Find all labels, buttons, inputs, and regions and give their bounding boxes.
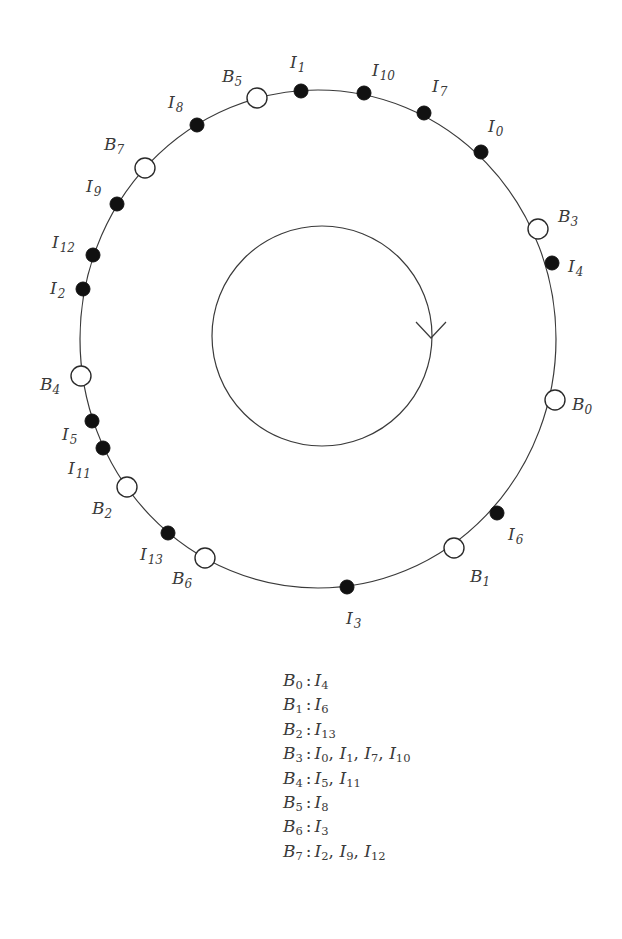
node-b3: [528, 219, 548, 239]
legend-row-b0: B0:I4: [283, 668, 411, 692]
node-label-i10: I10: [371, 60, 395, 83]
node-label-b5: B5: [221, 66, 242, 89]
node-label-i2: I2: [49, 278, 65, 301]
legend-key: B4: [283, 768, 303, 788]
legend-comma: ,: [329, 841, 340, 861]
node-b5: [247, 88, 267, 108]
legend-value: I2: [315, 841, 329, 861]
node-label-i4: I4: [567, 256, 583, 279]
legend-key: B7: [283, 841, 303, 861]
legend-value: I11: [339, 768, 360, 788]
legend-separator: :: [306, 768, 312, 788]
node-label-i3: I3: [345, 608, 362, 631]
node-label-b1: B1: [469, 566, 490, 589]
legend-value: I0: [315, 743, 329, 763]
legend-value: I8: [315, 792, 329, 812]
legend-row-b5: B5:I8: [283, 790, 411, 814]
legend-value: I6: [315, 694, 329, 714]
node-i10: [357, 86, 371, 100]
node-label-i1: I1: [289, 52, 305, 75]
node-label-i11: I11: [67, 458, 91, 481]
legend-value: I9: [339, 841, 353, 861]
node-i8: [190, 118, 204, 132]
node-label-i5: I5: [61, 424, 77, 447]
legend-value: I3: [315, 816, 329, 836]
legend-row-b3: B3:I0, I1, I7, I10: [283, 741, 411, 765]
node-b6: [195, 548, 215, 568]
legend-comma: ,: [353, 841, 364, 861]
legend-value: I5: [315, 768, 329, 788]
legend-separator: :: [306, 792, 312, 812]
labels-layer: B0B1B2B3B4B5B6B7I0I1I2I3I4I5I6I7I8I9I10I…: [39, 52, 593, 631]
node-label-i7: I7: [431, 76, 448, 99]
node-i4: [545, 256, 559, 270]
node-i5: [85, 414, 99, 428]
node-b2: [117, 477, 137, 497]
node-b7: [135, 158, 155, 178]
node-label-i13: I13: [139, 544, 163, 567]
node-label-i8: I8: [167, 92, 184, 115]
legend-key: B3: [283, 743, 303, 763]
legend-comma: ,: [353, 743, 364, 763]
legend-separator: :: [306, 816, 312, 836]
node-b4: [71, 366, 91, 386]
legend-value: I10: [389, 743, 410, 763]
legend-key: B1: [283, 694, 303, 714]
node-label-b2: B2: [91, 498, 112, 521]
nodes-layer: [71, 84, 565, 594]
node-i9: [110, 197, 124, 211]
node-label-i12: I12: [51, 232, 75, 255]
node-label-b7: B7: [103, 134, 125, 157]
node-b1: [444, 538, 464, 558]
legend-key: B5: [283, 792, 303, 812]
assignment-legend: B0:I4B1:I6B2:I13B3:I0, I1, I7, I10B4:I5,…: [283, 668, 411, 863]
legend-value: I7: [364, 743, 378, 763]
legend-key: B6: [283, 816, 303, 836]
legend-key: B2: [283, 719, 303, 739]
node-i3: [340, 580, 354, 594]
node-label-b0: B0: [571, 394, 593, 417]
legend-row-b1: B1:I6: [283, 692, 411, 716]
legend-separator: :: [306, 694, 312, 714]
node-i6: [490, 506, 504, 520]
legend-comma: ,: [329, 743, 340, 763]
node-i7: [417, 106, 431, 120]
node-label-b4: B4: [39, 374, 60, 397]
legend-separator: :: [306, 743, 312, 763]
node-label-b6: B6: [171, 568, 193, 591]
legend-value: I4: [315, 670, 329, 690]
node-i12: [86, 248, 100, 262]
legend-separator: :: [306, 670, 312, 690]
legend-value: I12: [364, 841, 385, 861]
legend-comma: ,: [378, 743, 389, 763]
node-b0: [545, 390, 565, 410]
legend-separator: :: [306, 719, 312, 739]
node-i0: [474, 145, 488, 159]
legend-value: I13: [315, 719, 336, 739]
legend-value: I1: [339, 743, 353, 763]
node-label-i9: I9: [85, 176, 102, 199]
node-label-i0: I0: [487, 116, 504, 139]
node-i1: [294, 84, 308, 98]
legend-row-b7: B7:I2, I9, I12: [283, 839, 411, 863]
node-i2: [76, 282, 90, 296]
node-label-b3: B3: [557, 206, 579, 229]
node-label-i6: I6: [507, 524, 524, 547]
legend-comma: ,: [329, 768, 340, 788]
legend-key: B0: [283, 670, 303, 690]
node-i13: [161, 526, 175, 540]
legend-row-b6: B6:I3: [283, 814, 411, 838]
direction-circle: [212, 226, 432, 446]
legend-separator: :: [306, 841, 312, 861]
legend-row-b2: B2:I13: [283, 717, 411, 741]
node-i11: [96, 441, 110, 455]
legend-row-b4: B4:I5, I11: [283, 766, 411, 790]
